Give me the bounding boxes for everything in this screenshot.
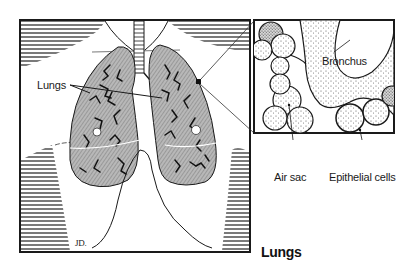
magnified-region-marker: [196, 79, 201, 84]
figure-caption: Lungs: [261, 245, 302, 259]
label-lungs: Lungs: [37, 80, 66, 91]
label-bronchus: Bronchus: [322, 56, 367, 67]
label-epithelial-cells: Epithelial cells: [329, 172, 396, 183]
artist-signature: JD.: [75, 239, 87, 248]
label-air-sac: Air sac: [274, 172, 306, 183]
inset-magnified-view: [252, 20, 402, 140]
lungs-diagram: [0, 0, 416, 273]
torso-illustration: [20, 20, 254, 252]
